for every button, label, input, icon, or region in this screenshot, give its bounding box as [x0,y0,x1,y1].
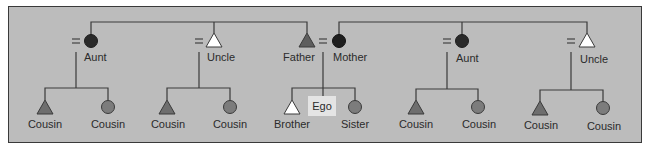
label-brother: Brother [274,118,310,130]
label-aunt-left: Aunt [84,51,107,63]
uncle-left-triangle-icon [206,33,222,47]
sister-circle-icon [349,101,362,114]
label-cousin: Cousin [462,118,496,130]
label-cousin: Cousin [587,120,621,132]
label-father: Father [283,51,315,63]
label-mother: Mother [333,51,367,63]
cousin-circle-icon [224,101,237,114]
cousin-triangle-icon [159,100,175,114]
ego-label: Ego [308,96,336,116]
label-cousin: Cousin [28,118,62,130]
cousin-triangle-icon [408,100,424,114]
father-triangle-icon [299,33,315,47]
label-cousin: Cousin [524,119,558,131]
cousin-circle-icon [472,101,485,114]
cousin-circle-icon [597,102,610,115]
label-uncle-right: Uncle [580,53,608,65]
label-cousin: Cousin [399,118,433,130]
uncle-right-triangle-icon [579,33,595,47]
label-aunt-right: Aunt [456,52,479,64]
label-cousin: Cousin [151,118,185,130]
label-cousin: Cousin [91,118,125,130]
label-uncle-left: Uncle [207,51,235,63]
label-cousin: Cousin [213,118,247,130]
mother-circle-icon [333,35,346,48]
aunt-left-circle-icon [85,35,98,48]
cousin-triangle-icon [532,101,548,115]
brother-triangle-icon [284,100,300,114]
cousin-circle-icon [102,101,115,114]
cousin-triangle-icon [37,100,53,114]
aunt-right-circle-icon [456,35,469,48]
label-sister: Sister [341,118,369,130]
